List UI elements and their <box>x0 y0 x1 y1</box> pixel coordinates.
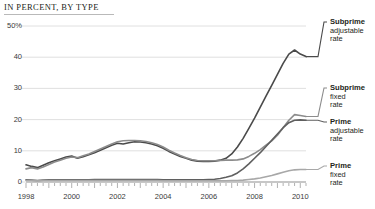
series-line-1 <box>26 115 306 169</box>
chart-plot-area <box>0 0 375 209</box>
legend-connector-1 <box>306 88 327 116</box>
x-tick-label: 2002 <box>102 192 132 201</box>
legend-item-2: Primeadjustablerate <box>330 118 375 143</box>
legend-item-line2: rate <box>330 101 375 109</box>
y-tick-label: 10 <box>0 146 22 155</box>
legend-connector-2 <box>306 120 327 122</box>
x-tick-label: 2004 <box>148 192 178 201</box>
x-tick-label: 2010 <box>285 192 315 201</box>
y-tick-label: 30 <box>0 83 22 92</box>
chart-container: IN PERCENT, BY TYPE 50%403020100 1998200… <box>0 0 375 209</box>
legend-item-1: Subprimefixedrate <box>330 84 375 109</box>
x-tick-label: 2008 <box>240 192 270 201</box>
y-tick-label: 0 <box>0 177 22 186</box>
series-lines <box>26 50 306 181</box>
x-tick-label: 2006 <box>194 192 224 201</box>
legend-connector-0 <box>306 22 327 57</box>
legend-item-line2: rate <box>330 135 375 143</box>
legend-item-0: Subprimeadjustablerate <box>330 18 375 43</box>
y-tick-label: 50% <box>0 21 22 30</box>
x-tick-label: 1998 <box>11 192 41 201</box>
legend-connectors <box>306 22 327 170</box>
legend-item-3: Primefixedrate <box>330 162 375 187</box>
legend-item-line2: rate <box>330 35 375 43</box>
series-line-0 <box>26 50 306 168</box>
legend-connector-3 <box>306 166 327 170</box>
axis-ticks <box>21 26 306 188</box>
y-tick-label: 40 <box>0 52 22 61</box>
legend-item-line2: rate <box>330 179 375 187</box>
y-tick-label: 20 <box>0 115 22 124</box>
x-tick-label: 2000 <box>57 192 87 201</box>
